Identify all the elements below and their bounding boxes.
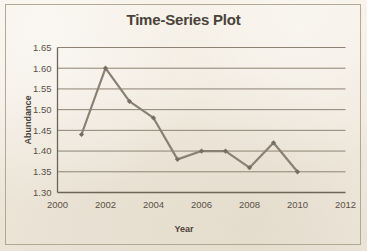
x-tick-label: 2000: [47, 199, 68, 210]
y-tick-label: 1.50: [33, 104, 52, 115]
y-tick-label: 1.60: [33, 63, 52, 74]
y-tick-label: 1.40: [33, 145, 52, 156]
y-tick-label: 1.35: [33, 166, 52, 177]
axis-lines: [58, 48, 346, 193]
x-tick-label: 2004: [143, 199, 164, 210]
x-axis-tick-labels: 2000200220042006200820102012: [47, 199, 356, 210]
x-tick-label: 2010: [287, 199, 308, 210]
time-series-chart: 1.651.601.551.501.451.401.351.30 2000200…: [0, 0, 367, 251]
y-axis-tick-labels: 1.651.601.551.501.451.401.351.30: [33, 42, 52, 198]
data-point-marker: [199, 148, 204, 153]
series-polyline: [82, 68, 298, 172]
x-tick-label: 2008: [239, 199, 260, 210]
data-point-markers: [79, 66, 300, 175]
chart-screenshot: Time-Series Plot 1.651.601.551.501.451.4…: [0, 0, 367, 251]
x-tick-label: 2006: [191, 199, 212, 210]
y-axis-title: Abundance: [23, 95, 33, 144]
x-axis-title: Year: [174, 224, 194, 234]
y-tick-label: 1.55: [33, 83, 52, 94]
y-tick-label: 1.30: [33, 187, 52, 198]
data-series-line: [82, 68, 298, 172]
y-tick-label: 1.65: [33, 42, 52, 53]
y-tick-label: 1.45: [33, 125, 52, 136]
x-tick-label: 2012: [335, 199, 356, 210]
x-tick-label: 2002: [95, 199, 116, 210]
